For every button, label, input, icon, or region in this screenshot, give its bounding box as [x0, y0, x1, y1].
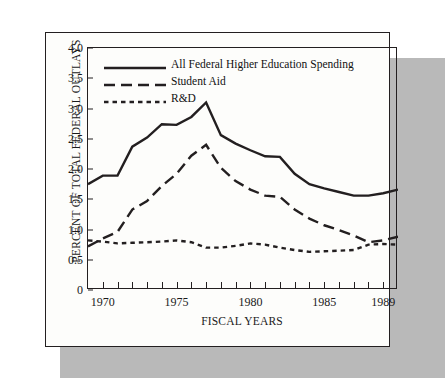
- y-tick-label: 1.0: [68, 222, 83, 237]
- figure-canvas: PERCENT OF TOTAL FEDERAL OUTLAYS 00.51.0…: [0, 0, 447, 379]
- y-tick-label: 4.0: [68, 41, 83, 56]
- x-tick-label: 1970: [91, 295, 115, 310]
- figure-frame: PERCENT OF TOTAL FEDERAL OUTLAYS 00.51.0…: [45, 32, 390, 347]
- y-tick-label: 2.5: [68, 131, 83, 146]
- legend-swatch: [104, 93, 166, 103]
- legend-item: All Federal Higher Education Spending: [104, 55, 354, 72]
- series-line: [88, 240, 398, 251]
- x-tick-label: 1989: [371, 295, 395, 310]
- y-tick-label: 1.5: [68, 192, 83, 207]
- y-tick-label: 3.5: [68, 71, 83, 86]
- legend-label: R&D: [171, 92, 196, 104]
- x-axis-title: FISCAL YEARS: [87, 315, 397, 327]
- legend-swatch: [104, 59, 166, 69]
- chart-legend: All Federal Higher Education SpendingStu…: [104, 55, 354, 106]
- y-tick-label: 0.5: [68, 252, 83, 267]
- y-tick-label: 2.0: [68, 162, 83, 177]
- legend-label: All Federal Higher Education Spending: [171, 58, 354, 70]
- x-tick-label: 1985: [312, 295, 336, 310]
- legend-swatch: [104, 76, 166, 86]
- series-line: [88, 102, 398, 195]
- y-axis-title: PERCENT OF TOTAL FEDERAL OUTLAYS: [70, 26, 82, 276]
- chart-figure: PERCENT OF TOTAL FEDERAL OUTLAYS 00.51.0…: [46, 33, 391, 348]
- x-tick-label: 1975: [165, 295, 189, 310]
- y-tick-label: 0: [77, 283, 83, 298]
- legend-label: Student Aid: [171, 75, 226, 87]
- legend-item: R&D: [104, 89, 354, 106]
- x-tick-label: 1980: [238, 295, 262, 310]
- legend-item: Student Aid: [104, 72, 354, 89]
- y-tick-label: 3.0: [68, 101, 83, 116]
